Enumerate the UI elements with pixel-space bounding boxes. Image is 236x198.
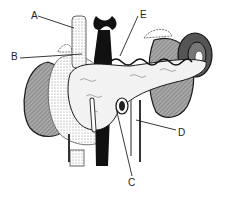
label-b: B xyxy=(11,52,18,62)
label-a: A xyxy=(31,11,38,21)
superior-mesenteric-vessel xyxy=(116,98,128,114)
label-c: C xyxy=(128,178,135,188)
label-e: E xyxy=(140,10,147,20)
label-d: D xyxy=(178,128,185,138)
common-bile-duct xyxy=(92,100,94,130)
pancreas-anatomy-diagram xyxy=(0,0,236,198)
